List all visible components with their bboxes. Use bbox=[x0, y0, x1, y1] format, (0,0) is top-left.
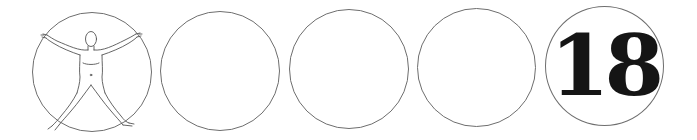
human-figure-icon bbox=[33, 13, 151, 131]
empty-circle-2 bbox=[289, 9, 409, 129]
number-circle: 18 bbox=[545, 6, 664, 126]
empty-circle-3 bbox=[417, 8, 536, 127]
number-label: 18 bbox=[545, 24, 664, 108]
circle-strip: 18 bbox=[0, 0, 697, 140]
empty-circle-1 bbox=[160, 11, 280, 131]
figure-circle bbox=[32, 12, 152, 132]
